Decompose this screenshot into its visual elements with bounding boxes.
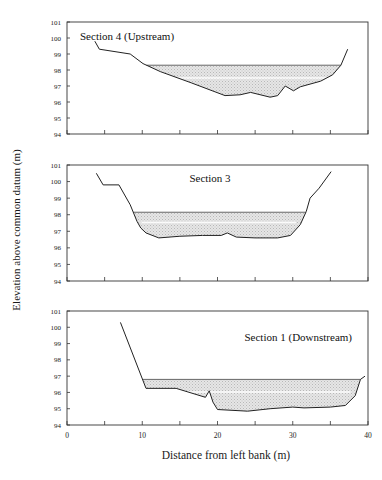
y-tick-label: 96 — [54, 99, 62, 107]
y-axis-label: Elevation above common datum (m) — [6, 100, 26, 360]
y-tick-label: 99 — [54, 195, 62, 203]
y-tick-label: 96 — [54, 389, 62, 397]
panel-1: 949596979899100101Section 4 (Upstream) — [51, 19, 369, 139]
y-axis-label-text: Elevation above common datum (m) — [10, 149, 22, 310]
y-tick-label: 101 — [51, 162, 62, 170]
x-tick-label: 20 — [214, 431, 222, 440]
x-tick-label: 0 — [65, 431, 69, 440]
water-fill — [133, 212, 306, 238]
panel-title: Section 4 (Upstream) — [80, 30, 174, 43]
y-tick-label: 98 — [54, 211, 62, 219]
y-tick-label: 99 — [54, 340, 62, 348]
x-tick-label: 10 — [139, 431, 147, 440]
cross-section-figure: 949596979899100101Section 4 (Upstream)94… — [0, 0, 382, 480]
y-tick-label: 97 — [54, 228, 62, 236]
x-axis-label: Distance from left bank (m) — [0, 449, 382, 461]
y-tick-label: 95 — [54, 115, 62, 123]
y-tick-label: 94 — [54, 131, 62, 139]
y-tick-label: 97 — [54, 83, 62, 91]
water-fill — [146, 65, 340, 97]
x-tick-label: 40 — [364, 431, 372, 440]
y-tick-label: 94 — [54, 422, 62, 430]
y-tick-label: 101 — [51, 19, 62, 27]
y-tick-label: 97 — [54, 373, 62, 381]
y-tick-label: 95 — [54, 261, 62, 269]
y-tick-label: 100 — [51, 324, 62, 332]
y-tick-label: 98 — [54, 356, 62, 364]
y-tick-label: 94 — [54, 278, 62, 286]
panel-title: Section 3 — [189, 172, 231, 184]
panel-2: 949596979899100101Section 3 — [51, 162, 369, 286]
panel-3: 949596979899100101010203040Section 1 (Do… — [51, 308, 373, 441]
panel-title: Section 1 (Downstream) — [244, 331, 352, 344]
x-tick-label: 30 — [289, 431, 297, 440]
water-fill — [143, 379, 361, 411]
y-tick-label: 100 — [51, 178, 62, 186]
y-tick-label: 96 — [54, 244, 62, 252]
plot-area: 949596979899100101Section 4 (Upstream)94… — [0, 0, 382, 480]
y-tick-label: 99 — [54, 51, 62, 59]
y-tick-label: 100 — [51, 35, 62, 43]
y-tick-label: 95 — [54, 405, 62, 413]
y-tick-label: 101 — [51, 308, 62, 316]
y-tick-label: 98 — [54, 67, 62, 75]
